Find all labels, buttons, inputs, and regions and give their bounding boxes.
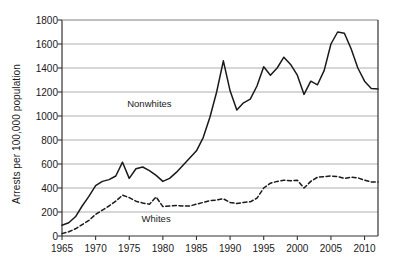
- y-tick-label: 200: [41, 207, 58, 218]
- series-line-nonwhites: [62, 32, 378, 225]
- y-tick-label: 400: [41, 183, 58, 194]
- series-label-whites: Whites: [142, 213, 171, 224]
- y-axis-tick-labels: 180016001400120010008006004002000: [22, 0, 58, 268]
- data-series: [62, 32, 378, 234]
- y-axis-label: Arrests per 100,000 population: [11, 34, 22, 234]
- x-axis-ticks: [62, 236, 365, 240]
- series-label-nonwhites: Nonwhites: [127, 97, 171, 108]
- series-line-whites: [62, 176, 378, 234]
- chart-container: Arrests per 100,000 population 180016001…: [0, 0, 397, 268]
- gridlines: [62, 20, 378, 212]
- y-axis-label-wrap: Arrests per 100,000 population: [0, 0, 22, 268]
- y-tick-label: 1800: [36, 15, 58, 26]
- plot-area: [0, 0, 397, 268]
- y-tick-label: 1200: [36, 87, 58, 98]
- y-tick-label: 0: [52, 231, 58, 242]
- y-tick-label: 1600: [36, 39, 58, 50]
- y-tick-label: 1000: [36, 111, 58, 122]
- y-tick-label: 1400: [36, 63, 58, 74]
- y-tick-label: 600: [41, 159, 58, 170]
- plot-frame: [62, 20, 378, 236]
- y-tick-label: 800: [41, 135, 58, 146]
